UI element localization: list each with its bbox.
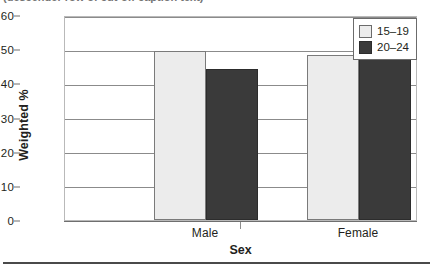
x-axis-tick-label-female: Female xyxy=(308,226,408,240)
y-axis-tick-label: 60 xyxy=(0,10,14,22)
legend-item-label: 20–24 xyxy=(377,41,409,53)
legend-swatch-dark xyxy=(359,41,372,54)
y-axis: 0102030405060 xyxy=(0,0,64,268)
bar-male-20-24 xyxy=(206,69,258,220)
y-axis-tick-label: 20 xyxy=(0,147,14,159)
y-axis-tick-label: 30 xyxy=(0,113,14,125)
y-axis-tick-mark xyxy=(14,50,20,51)
y-axis-tick-label: 40 xyxy=(0,78,14,90)
legend: 15–1920–24 xyxy=(353,18,417,60)
bar-female-20-24 xyxy=(359,37,411,220)
x-axis-title: Sex xyxy=(64,243,417,257)
y-axis-tick-mark xyxy=(14,221,20,222)
y-axis-title: Weighted % xyxy=(17,55,31,195)
legend-swatch-light xyxy=(359,25,372,38)
y-axis-tick-label: 10 xyxy=(0,181,14,193)
y-axis-tick-label: 50 xyxy=(0,44,14,56)
legend-item-label: 15–19 xyxy=(377,25,409,37)
y-axis-tick-mark xyxy=(14,16,20,17)
y-axis-tick-label: 0 xyxy=(0,215,14,227)
x-axis-tick-label-male: Male xyxy=(155,226,255,240)
bar-female-15-19 xyxy=(307,55,359,220)
bar-chart-figure: 0102030405060 Weighted % Sex 15–1920–24 … xyxy=(0,0,433,268)
legend-item: 15–19 xyxy=(359,23,409,39)
legend-item: 20–24 xyxy=(359,39,409,55)
bottom-rule-divider xyxy=(3,262,430,264)
bar-male-15-19 xyxy=(154,51,206,220)
